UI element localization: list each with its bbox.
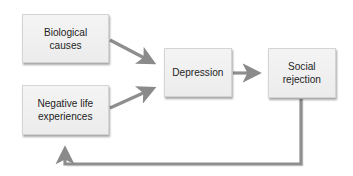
node-social-rejection: Social rejection (268, 48, 336, 98)
node-negative-life-experiences: Negative life experiences (22, 85, 109, 135)
node-label: Depression (172, 66, 223, 79)
arrow-negative-to-depression (110, 89, 152, 108)
node-label: Biological causes (44, 26, 87, 52)
depression-cycle-diagram: Biological causes Negative life experien… (0, 0, 353, 176)
node-label: Negative life experiences (38, 97, 94, 123)
node-biological-causes: Biological causes (22, 14, 109, 63)
node-label: Social rejection (283, 60, 321, 86)
node-depression: Depression (164, 48, 232, 97)
arrow-biological-to-depression (110, 40, 152, 62)
